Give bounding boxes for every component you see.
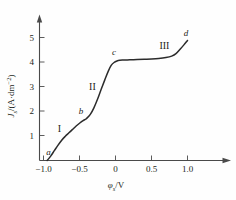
y-axis-exponent: −2	[5, 78, 12, 85]
annotation-c: c	[112, 47, 116, 57]
y-axis	[37, 15, 42, 161]
y-axis-arrow-icon	[37, 15, 42, 23]
y-tick-label-1: 1	[30, 131, 35, 141]
x-tick-label-1: 1.0	[182, 164, 194, 174]
y-tick-label-2: 2	[30, 106, 35, 116]
y-axis-unit: /(A·dm	[6, 84, 16, 111]
x-tick-label-neg0-5: −0.5	[71, 164, 88, 174]
x-axis-ticks	[44, 156, 188, 161]
y-axis-tick-labels: 1 2 3 4 5	[30, 33, 35, 141]
annotation-region-3: III	[159, 40, 169, 51]
x-axis-arrow-icon	[223, 158, 232, 164]
x-axis-title: φs/V	[108, 180, 125, 192]
x-tick-label-neg1: −1.0	[35, 164, 52, 174]
x-tick-label-0-5: 0.5	[146, 164, 158, 174]
annotation-d: d	[184, 28, 189, 38]
chart-figure: 1 2 3 4 5 −1.0 −0.5 0 0.5 1.0 abcdIIIIII…	[0, 0, 236, 200]
y-tick-label-4: 4	[30, 57, 35, 67]
y-axis-close: )	[6, 75, 16, 78]
y-axis-title: Js/(A·dm−2)	[5, 75, 18, 118]
chart-annotations: abcdIIIIII	[46, 28, 189, 157]
x-axis	[40, 158, 232, 164]
y-tick-label-3: 3	[30, 82, 35, 92]
x-tick-label-0: 0	[113, 164, 118, 174]
annotation-region-2: II	[89, 81, 96, 92]
polarization-curve-line	[47, 40, 187, 160]
x-axis-unit: /V	[115, 180, 125, 190]
annotation-b: b	[79, 106, 84, 116]
polarization-curve-chart: 1 2 3 4 5 −1.0 −0.5 0 0.5 1.0 abcdIIIIII…	[0, 0, 236, 200]
y-axis-ticks	[40, 38, 45, 136]
x-axis-tick-labels: −1.0 −0.5 0 0.5 1.0	[35, 164, 193, 174]
y-tick-label-5: 5	[30, 33, 35, 43]
annotation-region-1: I	[58, 123, 61, 134]
annotation-a: a	[46, 147, 51, 157]
